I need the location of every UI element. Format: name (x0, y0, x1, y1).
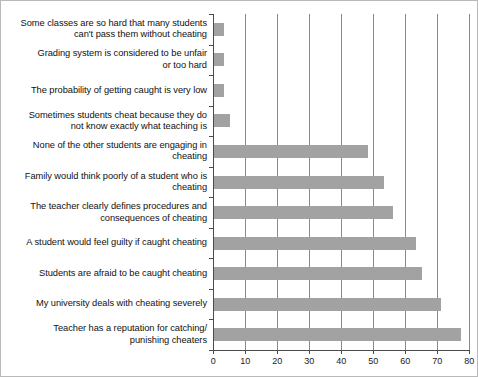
x-tick-50 (373, 350, 374, 354)
bar-10 (214, 328, 460, 341)
category-label-6: The teacher clearly defines procedures a… (4, 201, 207, 224)
y-tick-1 (209, 45, 213, 46)
bar-9 (214, 298, 441, 311)
category-label-line: not know exactly what teaching is (4, 121, 207, 132)
x-tick-label-70: 70 (432, 356, 442, 366)
category-label-line: Teacher has a reputation for catching/ (4, 323, 207, 334)
bar-8 (214, 267, 422, 280)
y-tick-10 (209, 319, 213, 320)
x-tick-label-30: 30 (304, 356, 314, 366)
category-label-line: or too hard (4, 60, 207, 71)
category-label-8: Students are afraid to be caught cheatin… (4, 268, 207, 279)
x-tick-40 (341, 350, 342, 354)
bar-2 (214, 84, 224, 97)
category-label-line: The teacher clearly defines procedures a… (4, 201, 207, 212)
y-tick-8 (209, 258, 213, 259)
x-tick-label-50: 50 (368, 356, 378, 366)
bar-7 (214, 237, 416, 250)
category-label-line: cheating (4, 151, 207, 162)
category-label-9: My university deals with cheating severe… (4, 298, 207, 309)
category-label-line: Students are afraid to be caught cheatin… (4, 268, 207, 279)
y-tick-5 (209, 167, 213, 168)
category-label-7: A student would feel guilty if caught ch… (4, 237, 207, 248)
x-tick-label-60: 60 (400, 356, 410, 366)
category-label-0: Some classes are so hard that many stude… (4, 18, 207, 41)
category-label-4: None of the other students are engaging … (4, 140, 207, 163)
gridline-80 (469, 14, 470, 350)
y-tick-0 (209, 14, 213, 15)
x-tick-30 (309, 350, 310, 354)
bar-6 (214, 206, 393, 219)
bar-1 (214, 53, 224, 66)
category-label-line: Sometimes students cheat because they do (4, 110, 207, 121)
x-tick-70 (437, 350, 438, 354)
x-tick-60 (405, 350, 406, 354)
bar-4 (214, 145, 368, 158)
category-label-line: cheating (4, 182, 207, 193)
category-label-line: Family would think poorly of a student w… (4, 171, 207, 182)
x-tick-label-10: 10 (240, 356, 250, 366)
x-tick-label-40: 40 (336, 356, 346, 366)
y-tick-11 (209, 350, 213, 351)
category-label-3: Sometimes students cheat because they do… (4, 110, 207, 133)
bar-chart: 01020304050607080 Some classes are so ha… (0, 0, 478, 377)
category-label-line: can't pass them without cheating (4, 29, 207, 40)
x-tick-10 (245, 350, 246, 354)
x-tick-label-20: 20 (272, 356, 282, 366)
category-label-10: Teacher has a reputation for catching/pu… (4, 323, 207, 346)
x-tick-label-80: 80 (464, 356, 474, 366)
y-tick-3 (209, 106, 213, 107)
y-tick-6 (209, 197, 213, 198)
category-label-line: consequences of cheating (4, 213, 207, 224)
y-tick-7 (209, 228, 213, 229)
category-label-line: My university deals with cheating severe… (4, 298, 207, 309)
category-label-line: Some classes are so hard that many stude… (4, 18, 207, 29)
bar-0 (214, 23, 224, 36)
x-tick-0 (213, 350, 214, 354)
x-tick-20 (277, 350, 278, 354)
category-label-line: punishing cheaters (4, 335, 207, 346)
y-tick-2 (209, 75, 213, 76)
x-tick-label-0: 0 (211, 356, 216, 366)
category-label-1: Grading system is considered to be unfai… (4, 48, 207, 71)
bar-3 (214, 114, 230, 127)
category-label-line: A student would feel guilty if caught ch… (4, 237, 207, 248)
category-label-line: None of the other students are engaging … (4, 140, 207, 151)
category-label-line: The probability of getting caught is ver… (4, 85, 207, 96)
x-tick-80 (469, 350, 470, 354)
category-label-5: Family would think poorly of a student w… (4, 171, 207, 194)
category-label-line: Grading system is considered to be unfai… (4, 48, 207, 59)
y-tick-9 (209, 289, 213, 290)
category-label-2: The probability of getting caught is ver… (4, 85, 207, 96)
bar-5 (214, 176, 384, 189)
y-tick-4 (209, 136, 213, 137)
